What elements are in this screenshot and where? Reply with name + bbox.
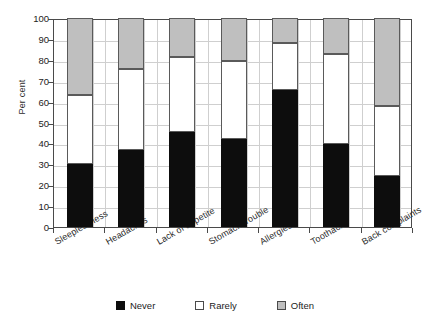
y-axis-tick-label: 60 <box>9 98 49 108</box>
vertical-gridline <box>105 20 106 227</box>
y-axis-tick-label: 20 <box>9 181 49 191</box>
vertical-gridline <box>144 20 145 227</box>
bar-segment-often <box>221 18 247 61</box>
x-axis-tick <box>412 228 413 233</box>
vertical-gridline <box>310 20 311 227</box>
vertical-gridline <box>400 20 401 227</box>
vertical-gridline <box>349 20 350 227</box>
bar <box>323 18 349 227</box>
legend-label: Often <box>291 300 314 311</box>
bar-segment-never <box>221 139 247 227</box>
bar <box>118 18 144 227</box>
legend-swatch-never <box>116 301 125 310</box>
bar-segment-never <box>67 164 93 227</box>
y-axis-tick-label: 40 <box>9 139 49 149</box>
x-axis-tick <box>309 228 310 233</box>
legend-item: Never <box>116 300 155 311</box>
bar-segment-rarely <box>67 95 93 164</box>
legend-swatch-rarely <box>195 301 204 310</box>
legend-label: Rarely <box>209 300 236 311</box>
bar-segment-never <box>118 150 144 227</box>
x-axis-tick <box>207 228 208 233</box>
y-axis-tick-label: 0 <box>9 223 49 233</box>
vertical-gridline <box>195 20 196 227</box>
bar-segment-rarely <box>118 69 144 149</box>
x-axis-tick <box>156 228 157 233</box>
x-axis-tick <box>53 228 54 233</box>
bar-segment-often <box>67 18 93 95</box>
bar-segment-never <box>272 90 298 227</box>
vertical-gridline <box>362 20 363 227</box>
bar <box>221 18 247 227</box>
legend-label: Never <box>130 300 155 311</box>
legend-item: Often <box>277 300 314 311</box>
bar <box>272 18 298 227</box>
bar-segment-often <box>374 18 400 106</box>
y-axis-tick-label: 30 <box>9 160 49 170</box>
bar-segment-rarely <box>374 106 400 176</box>
x-axis-tick <box>104 228 105 233</box>
y-axis-tick-label: 70 <box>9 77 49 87</box>
vertical-gridline <box>93 20 94 227</box>
bar-segment-never <box>374 176 400 227</box>
y-axis-tick-label: 90 <box>9 35 49 45</box>
vertical-gridline <box>298 20 299 227</box>
x-axis-tick <box>258 228 259 233</box>
bar-segment-often <box>323 18 349 54</box>
bar-segment-rarely <box>169 57 195 132</box>
bar-segment-rarely <box>272 43 298 90</box>
vertical-gridline <box>157 20 158 227</box>
bar-segment-often <box>118 18 144 69</box>
bar <box>374 18 400 227</box>
y-axis-tick-label: 80 <box>9 56 49 66</box>
y-axis-tick-label: 10 <box>9 202 49 212</box>
bar-segment-rarely <box>221 61 247 139</box>
bar <box>169 18 195 227</box>
bar-segment-often <box>169 18 195 57</box>
chart-container: Per cent 0102030405060708090100 Sleeples… <box>0 0 430 330</box>
vertical-gridline <box>208 20 209 227</box>
chart-legend: NeverRarelyOften <box>0 300 430 311</box>
bar-segment-never <box>169 132 195 227</box>
vertical-gridline <box>259 20 260 227</box>
legend-swatch-often <box>277 301 286 310</box>
y-axis-tick-label: 100 <box>9 14 49 24</box>
vertical-gridline <box>247 20 248 227</box>
plot-area <box>53 19 412 228</box>
bar-segment-never <box>323 144 349 227</box>
bar-segment-rarely <box>323 54 349 145</box>
x-axis-tick <box>361 228 362 233</box>
legend-item: Rarely <box>195 300 236 311</box>
bar-segment-often <box>272 18 298 43</box>
bar <box>67 18 93 227</box>
y-axis-tick-label: 50 <box>9 119 49 129</box>
